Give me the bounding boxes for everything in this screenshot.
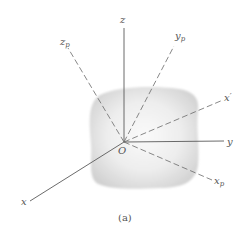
principal-axes-diagram: z y x zp yp xp x′ O (a) [0, 0, 249, 234]
x-axis-label: x [21, 196, 27, 207]
origin-label: O [118, 145, 126, 156]
zp-subscript: p [65, 41, 70, 49]
yp-subscript: p [181, 35, 186, 43]
xp-axis-label: xp [214, 175, 225, 188]
figure-caption: (a) [118, 212, 132, 223]
diagram-canvas: z y x zp yp xp x′ O (a) [0, 0, 249, 234]
zp-axis-label: zp [59, 36, 70, 49]
yp-axis-label: yp [174, 30, 186, 43]
y-axis-label: y [226, 136, 233, 147]
z-axis-label: z [119, 14, 126, 25]
x-prime-axis-label: x′ [224, 91, 232, 103]
xp-subscript: p [220, 180, 225, 188]
rigid-body-shape [90, 87, 199, 189]
x-prime-mark: ′ [230, 91, 232, 100]
